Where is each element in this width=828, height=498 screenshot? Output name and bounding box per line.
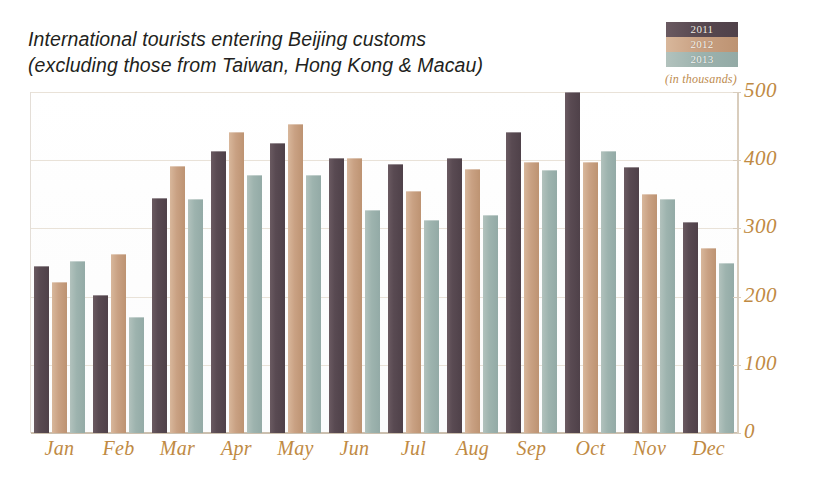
bar-2013-feb[interactable] <box>129 317 144 433</box>
chart-container: International tourists entering Beijing … <box>0 0 828 498</box>
bar-2011-feb[interactable] <box>93 295 108 433</box>
units-note: (in thousands) <box>646 72 756 87</box>
x-tick-label-dec: Dec <box>680 437 738 460</box>
x-tick-label-mar: Mar <box>149 437 207 460</box>
chart-title: International tourists entering Beijing … <box>28 26 528 78</box>
bar-group-feb <box>93 92 144 433</box>
bar-2011-jun[interactable] <box>329 158 344 433</box>
bar-2011-aug[interactable] <box>447 158 462 433</box>
legend-item-2011[interactable]: 2011 <box>666 22 738 37</box>
bar-group-jun <box>329 92 380 433</box>
y-tick-mark-100 <box>733 365 741 366</box>
y-tick-label-100: 100 <box>744 353 777 374</box>
bars-layer <box>30 92 738 433</box>
bar-2013-sep[interactable] <box>542 170 557 433</box>
x-tick-label-may: May <box>267 437 325 460</box>
y-tick-mark-500 <box>733 92 741 93</box>
bar-2012-may[interactable] <box>288 124 303 433</box>
x-tick-label-nov: Nov <box>621 437 679 460</box>
bar-2011-may[interactable] <box>270 143 285 433</box>
bar-group-jan <box>34 92 85 433</box>
y-tick-label-200: 200 <box>744 285 777 306</box>
y-tick-label-0: 0 <box>744 421 755 442</box>
bar-2012-dec[interactable] <box>701 248 716 434</box>
bar-2013-jan[interactable] <box>70 261 85 433</box>
bar-2012-jun[interactable] <box>347 158 362 433</box>
bar-group-mar <box>152 92 203 433</box>
bar-group-sep <box>506 92 557 433</box>
legend-item-2013[interactable]: 2013 <box>666 52 738 67</box>
bar-group-may <box>270 92 321 433</box>
bar-2012-feb[interactable] <box>111 254 126 433</box>
bar-2013-dec[interactable] <box>719 263 734 434</box>
y-tick-mark-300 <box>733 228 741 229</box>
bar-2012-apr[interactable] <box>229 132 244 433</box>
bar-group-apr <box>211 92 262 433</box>
legend-label-2011: 2011 <box>691 24 714 35</box>
x-tick-label-apr: Apr <box>208 437 266 460</box>
bar-2012-nov[interactable] <box>642 194 657 433</box>
bar-2013-jun[interactable] <box>365 210 380 433</box>
bar-2011-nov[interactable] <box>624 167 639 433</box>
bar-group-dec <box>683 92 734 433</box>
x-tick-label-aug: Aug <box>444 437 502 460</box>
bar-2013-may[interactable] <box>306 175 321 433</box>
y-tick-mark-200 <box>733 297 741 298</box>
chart-title-line-1: International tourists entering Beijing … <box>28 26 528 52</box>
bar-2013-aug[interactable] <box>483 215 498 433</box>
x-axis-labels: JanFebMarAprMayJunJulAugSepOctNovDec <box>30 437 738 471</box>
legend-item-2012[interactable]: 2012 <box>666 37 738 52</box>
bar-2012-sep[interactable] <box>524 162 539 433</box>
bar-group-jul <box>388 92 439 433</box>
chart-legend: 2011 2012 2013 <box>666 22 738 67</box>
bar-2011-sep[interactable] <box>506 132 521 433</box>
x-tick-label-jun: Jun <box>326 437 384 460</box>
bar-2012-oct[interactable] <box>583 162 598 433</box>
bar-group-oct <box>565 92 616 433</box>
bar-2013-mar[interactable] <box>188 199 203 433</box>
x-tick-label-jan: Jan <box>31 437 89 460</box>
bar-2012-mar[interactable] <box>170 166 185 433</box>
y-tick-mark-400 <box>733 160 741 161</box>
bar-2011-mar[interactable] <box>152 198 167 433</box>
y-tick-label-500: 500 <box>744 80 777 101</box>
bar-2011-jul[interactable] <box>388 164 403 433</box>
bar-group-nov <box>624 92 675 433</box>
y-tick-label-400: 400 <box>744 148 777 169</box>
y-axis-line <box>738 92 739 433</box>
x-tick-label-feb: Feb <box>90 437 148 460</box>
legend-label-2012: 2012 <box>690 39 713 50</box>
bar-2011-dec[interactable] <box>683 222 698 433</box>
x-tick-label-jul: Jul <box>385 437 443 460</box>
x-tick-label-sep: Sep <box>503 437 561 460</box>
bar-2011-apr[interactable] <box>211 151 226 433</box>
y-tick-mark-0 <box>733 433 741 434</box>
bar-group-aug <box>447 92 498 433</box>
bar-2013-oct[interactable] <box>601 151 616 433</box>
bar-2012-jan[interactable] <box>52 282 67 433</box>
bar-2013-jul[interactable] <box>424 220 439 433</box>
bar-2011-oct[interactable] <box>565 92 580 433</box>
bar-2011-jan[interactable] <box>34 266 49 433</box>
x-tick-label-oct: Oct <box>562 437 620 460</box>
chart-title-line-2: (excluding those from Taiwan, Hong Kong … <box>28 52 528 78</box>
bar-2012-jul[interactable] <box>406 191 421 433</box>
y-tick-label-300: 300 <box>744 216 777 237</box>
bar-2012-aug[interactable] <box>465 169 480 433</box>
bar-2013-nov[interactable] <box>660 199 675 433</box>
bar-2013-apr[interactable] <box>247 175 262 433</box>
legend-label-2013: 2013 <box>690 54 713 65</box>
